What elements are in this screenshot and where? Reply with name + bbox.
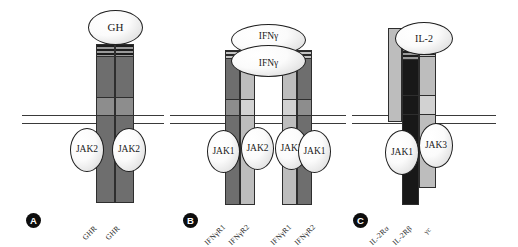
receptor-column-il2rb	[402, 52, 419, 205]
receptor-label-ifngr2-right: IFNγR2	[293, 222, 318, 247]
receptor-label-ifngr2-left: IFNγR2	[227, 222, 252, 247]
receptor-label-il2rb: IL-2Rβ	[391, 224, 414, 247]
ligand-gh: GH	[88, 10, 143, 45]
receptor-label-ghr-left: GHR	[81, 224, 99, 242]
kinase-jak2-right-label: JAK2	[118, 145, 140, 155]
ligand-il2-label: IL-2	[415, 34, 433, 44]
kinase-jak2-left: JAK2	[70, 128, 104, 172]
receptor-label-ifngr1-left: IFNγR1	[203, 222, 228, 247]
receptor-band-ifngr1-left	[225, 99, 240, 116]
membrane-segment-b	[170, 115, 346, 124]
receptor-band-ifngr2-right	[297, 99, 312, 116]
receptor-band-ghr-right	[115, 97, 134, 116]
panel-marker-c: C	[353, 213, 368, 228]
receptor-band-il2rb	[402, 95, 419, 115]
receptor-band-ifngr1-right	[282, 99, 297, 116]
receptor-band-gammac	[419, 95, 436, 115]
ligand-ifng-lower: IFNγ	[231, 45, 306, 77]
kinase-jak2-right: JAK2	[112, 128, 146, 172]
ligand-ifng-upper-label: IFNγ	[259, 32, 279, 42]
receptor-band-ifngr2-left	[240, 99, 255, 116]
ligand-il2: IL-2	[395, 22, 453, 55]
receptor-label-il2ra: IL-2Rα	[368, 224, 391, 247]
panel-marker-b: B	[183, 213, 198, 228]
kinase-jak2-left-label: JAK2	[76, 145, 98, 155]
ligand-gh-label: GH	[108, 22, 124, 33]
receptor-column-ghr-left	[96, 55, 115, 203]
panel-marker-a: A	[26, 213, 41, 228]
ligand-ifng-lower-label: IFNγ	[259, 59, 279, 69]
kinase-jak3-c: JAK3	[419, 123, 453, 168]
receptor-stripes-ghr-left	[96, 44, 115, 57]
kinase-jak2-b-left: JAK2	[241, 127, 274, 170]
receptor-label-ifngr1-right: IFNγR1	[269, 222, 294, 247]
receptor-label-ghr-right: GHR	[104, 224, 122, 242]
kinase-jak1-b-left: JAK1	[207, 130, 240, 173]
receptor-stripes-ghr-right	[115, 44, 134, 57]
membrane-segment-a	[22, 115, 164, 124]
receptor-label-gammac: γc	[422, 226, 432, 236]
kinase-jak1-c: JAK1	[385, 130, 419, 175]
receptor-band-ghr-left	[96, 97, 115, 116]
kinase-jak1-b-right: JAK1	[298, 130, 331, 173]
